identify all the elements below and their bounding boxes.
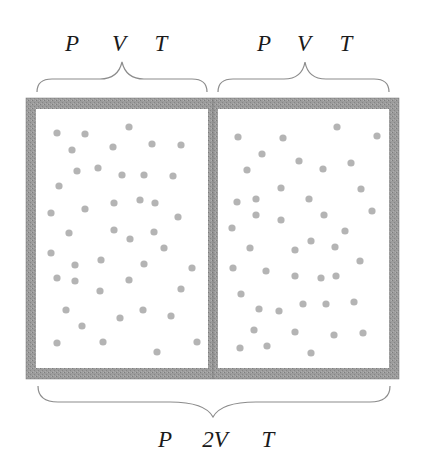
gas-molecule	[368, 207, 375, 214]
bottom-volume-label: 2V	[202, 428, 228, 451]
gas-molecule	[55, 182, 62, 189]
gas-molecule	[177, 141, 184, 148]
gas-molecule	[94, 164, 101, 171]
gas-molecule	[71, 261, 78, 268]
gas-molecule	[228, 224, 235, 231]
gas-molecule	[71, 277, 78, 284]
gas-molecule	[332, 272, 339, 279]
gas-molecule	[125, 123, 132, 130]
gas-molecule	[331, 243, 338, 250]
gas-molecule	[307, 237, 314, 244]
gas-molecule	[291, 246, 298, 253]
gas-molecule	[96, 287, 103, 294]
gas-molecule	[356, 257, 363, 264]
gas-molecule	[252, 195, 259, 202]
gas-molecule	[177, 285, 184, 292]
gas-molecule	[330, 331, 337, 338]
gas-molecule	[47, 209, 54, 216]
gas-molecule	[373, 132, 380, 139]
gas-molecule	[357, 185, 364, 192]
gas-molecule	[277, 216, 284, 223]
gas-molecule	[116, 314, 123, 321]
gas-molecule	[97, 256, 104, 263]
gas-molecule	[53, 274, 60, 281]
gas-molecule	[140, 260, 147, 267]
gas-molecule	[136, 196, 143, 203]
bottom-temperature-label: T	[262, 428, 275, 451]
gas-molecule	[291, 328, 298, 335]
gas-molecule	[320, 211, 327, 218]
gas-molecule	[151, 199, 158, 206]
gas-molecule	[65, 229, 72, 236]
gas-molecule	[62, 306, 69, 313]
gas-molecule	[167, 312, 174, 319]
gas-molecule	[243, 166, 250, 173]
gas-molecule	[350, 298, 357, 305]
gas-molecule	[250, 326, 257, 333]
gas-molecule	[347, 159, 354, 166]
gas-molecule	[319, 165, 326, 172]
top-left-brace	[37, 62, 207, 92]
gas-molecule	[148, 140, 155, 147]
gas-molecule	[305, 195, 312, 202]
right-chamber	[218, 109, 389, 368]
gas-molecule	[322, 300, 329, 307]
gas-molecule	[307, 349, 314, 356]
bottom-pressure-label: P	[158, 428, 172, 451]
gas-container-diagram	[0, 0, 426, 453]
gas-molecule	[150, 228, 157, 235]
gas-molecule	[81, 130, 88, 137]
gas-molecule	[188, 264, 195, 271]
gas-molecule	[236, 344, 243, 351]
gas-molecule	[109, 143, 116, 150]
gas-molecule	[233, 198, 240, 205]
gas-molecule	[258, 150, 265, 157]
gas-molecule	[341, 227, 348, 234]
top-left-temperature-label: T	[155, 32, 168, 55]
gas-molecule	[53, 129, 60, 136]
gas-molecule	[99, 338, 106, 345]
gas-molecule	[73, 167, 80, 174]
top-right-pressure-label: P	[257, 32, 271, 55]
gas-molecule	[118, 171, 125, 178]
gas-molecule	[275, 307, 282, 314]
gas-molecule	[299, 300, 306, 307]
gas-molecule	[291, 272, 298, 279]
gas-molecule	[229, 264, 236, 271]
gas-molecule	[359, 329, 366, 336]
container	[26, 98, 399, 379]
gas-molecule	[126, 235, 133, 242]
gas-molecule	[262, 267, 269, 274]
top-right-temperature-label: T	[340, 32, 353, 55]
gas-molecule	[234, 133, 241, 140]
gas-molecule	[78, 322, 85, 329]
gas-molecule	[110, 199, 117, 206]
gas-molecule	[237, 290, 244, 297]
top-left-volume-label: V	[112, 32, 126, 55]
gas-molecule	[125, 276, 132, 283]
gas-molecule	[317, 274, 324, 281]
gas-molecule	[255, 305, 262, 312]
gas-molecule	[277, 184, 284, 191]
gas-molecule	[139, 306, 146, 313]
gas-molecule	[110, 226, 117, 233]
gas-molecule	[295, 157, 302, 164]
bottom-brace	[38, 386, 390, 417]
gas-molecule	[279, 134, 286, 141]
gas-molecule	[252, 211, 259, 218]
top-left-pressure-label: P	[65, 32, 79, 55]
gas-molecule	[246, 244, 253, 251]
top-right-brace	[218, 62, 389, 92]
gas-molecule	[160, 244, 167, 251]
gas-molecule	[47, 249, 54, 256]
top-right-volume-label: V	[297, 32, 311, 55]
gas-molecule	[174, 213, 181, 220]
gas-molecule	[169, 172, 176, 179]
gas-molecule	[53, 339, 60, 346]
gas-molecule	[333, 123, 340, 130]
gas-molecule	[140, 171, 147, 178]
gas-molecule	[81, 205, 88, 212]
gas-molecule	[263, 342, 270, 349]
gas-molecule	[68, 146, 75, 153]
gas-molecule	[193, 338, 200, 345]
